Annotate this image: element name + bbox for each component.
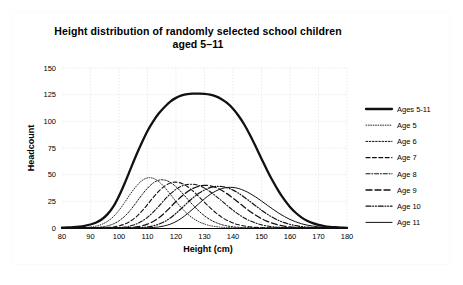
x-axis-tick-labels: 8090100110120130140150160170180 xyxy=(58,232,353,241)
x-axis-tick-label: 100 xyxy=(113,232,126,241)
x-axis-title: Height (cm) xyxy=(183,244,233,254)
legend-label-age-7[interactable]: Age 7 xyxy=(397,153,417,162)
gridlines xyxy=(62,68,347,228)
y-axis-tick-label: 75 xyxy=(48,144,56,153)
x-axis-tick-label: 170 xyxy=(312,232,325,241)
y-axis-tick-label: 100 xyxy=(43,117,56,126)
y-axis-tick-label: 0 xyxy=(52,224,56,233)
x-axis-tick-label: 140 xyxy=(227,232,240,241)
x-axis-tick-label: 120 xyxy=(170,232,183,241)
legend-label-age-5[interactable]: Age 5 xyxy=(397,121,417,130)
legend-label-age-11[interactable]: Age 11 xyxy=(397,218,420,227)
x-axis-tick-label: 110 xyxy=(142,232,154,241)
x-axis-tick-label: 90 xyxy=(86,232,94,241)
legend-label-age-6[interactable]: Age 6 xyxy=(397,137,417,146)
height-distribution-chart: 0255075100125150 80901001101201301401501… xyxy=(0,0,463,285)
legend-label-age-10[interactable]: Age 10 xyxy=(397,202,421,211)
legend-label-ages-5-11[interactable]: Ages 5-11 xyxy=(397,105,431,114)
legend-label-age-9[interactable]: Age 9 xyxy=(397,186,417,195)
y-axis-tick-label: 150 xyxy=(43,64,56,73)
y-axis-tick-label: 25 xyxy=(48,197,56,206)
curve-age-7 xyxy=(62,182,347,228)
y-axis-tick-label: 125 xyxy=(43,90,56,99)
y-axis-tick-label: 50 xyxy=(48,170,56,179)
y-axis-title: Headcount xyxy=(26,125,36,172)
x-axis-tick-label: 180 xyxy=(341,232,354,241)
x-axis-tick-label: 80 xyxy=(58,232,66,241)
chart-legend: Ages 5-11Age 5Age 6Age 7Age 8Age 9Age 10… xyxy=(366,105,431,227)
x-axis-tick-label: 150 xyxy=(255,232,268,241)
x-axis-tick-label: 160 xyxy=(284,232,297,241)
y-axis-tick-labels: 0255075100125150 xyxy=(43,64,56,233)
x-axis-tick-label: 130 xyxy=(198,232,211,241)
chart-plot-region: 0255075100125150 80901001101201301401501… xyxy=(0,0,463,285)
legend-label-age-8[interactable]: Age 8 xyxy=(397,170,417,179)
